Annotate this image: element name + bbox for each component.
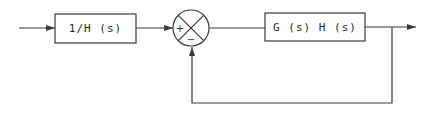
prefilter-block: 1/H (s) xyxy=(55,14,136,43)
forward-block: G (s) H (s) xyxy=(265,13,365,41)
plus-sign: + xyxy=(176,23,184,34)
summing-junction: + − xyxy=(173,10,209,46)
prefilter-block-label: 1/H (s) xyxy=(69,22,122,35)
forward-block-label: G (s) H (s) xyxy=(273,21,357,34)
block-diagram: 1/H (s) + − G (s) H (s) xyxy=(0,0,437,114)
minus-sign: − xyxy=(187,34,195,45)
